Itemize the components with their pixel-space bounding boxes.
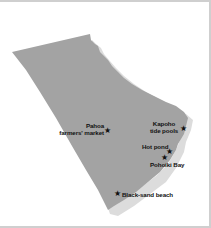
map-region [0, 0, 211, 228]
label-hot-pond-text: Hot pond [142, 143, 168, 150]
label-pahoa-line1: Pahoa [54, 122, 104, 129]
label-black-sand-text: Black-sand beach [122, 191, 173, 198]
label-pohoiki-text: Pohoiki Bay [150, 161, 184, 168]
label-kapoho-line1: Kapoho [146, 120, 182, 127]
label-kapoho-line2: tide pools [146, 127, 182, 134]
star-marker-icon[interactable]: ★ [114, 190, 121, 198]
label-black-sand: Black-sand beach [122, 191, 173, 198]
label-kapoho: Kapoho tide pools [146, 120, 182, 134]
label-hot-pond: Hot pond [142, 143, 168, 150]
star-marker-icon[interactable]: ★ [104, 127, 111, 135]
label-pahoa-line2: farmers' market [54, 129, 104, 136]
label-pohoiki: Pohoiki Bay [150, 161, 184, 168]
star-marker-icon[interactable]: ★ [180, 125, 187, 133]
label-pahoa: Pahoa farmers' market [54, 122, 104, 136]
